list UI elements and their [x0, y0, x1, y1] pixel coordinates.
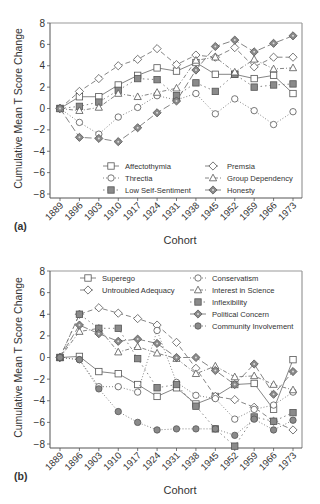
x-tick-label: 1924	[140, 450, 163, 473]
y-tick-label: 0	[39, 103, 45, 114]
x-tick-label: 1924	[140, 200, 163, 223]
data-point-marker	[193, 403, 199, 409]
y-tick-label: 8	[39, 18, 45, 29]
data-point-marker	[134, 104, 140, 110]
data-point-marker	[232, 443, 238, 449]
legend-item: Interest in Science	[190, 286, 274, 295]
data-point-marker	[115, 371, 121, 377]
legend-label: Interest in Science	[212, 286, 274, 295]
y-tick-label: −4	[34, 146, 46, 157]
data-point-marker	[154, 76, 160, 82]
data-point-marker	[115, 114, 121, 120]
data-point-marker	[114, 138, 122, 146]
data-point-marker	[134, 75, 140, 81]
data-point-marker	[251, 84, 257, 90]
x-tick-label: 1896	[62, 450, 85, 473]
x-tick-label: 1917	[120, 200, 143, 223]
x-tick-label: 1945	[198, 450, 221, 473]
legend-marker	[195, 323, 201, 329]
data-point-marker	[115, 325, 121, 331]
data-point-marker	[232, 416, 238, 422]
data-point-marker	[212, 88, 218, 94]
data-point-marker	[134, 93, 141, 100]
chart-panel-b: 86420−2−4−6−8188918961903191019171924193…	[0, 250, 320, 502]
legend-marker	[108, 175, 114, 181]
data-point-marker	[114, 337, 122, 345]
x-axis-label: Cohort	[163, 234, 196, 246]
data-point-marker	[251, 406, 257, 412]
data-point-marker	[211, 42, 219, 50]
legend-label: Conservatism	[212, 274, 258, 283]
panel-label: (b)	[14, 470, 27, 482]
data-point-marker	[193, 90, 199, 96]
x-tick-label: 1959	[237, 450, 260, 473]
x-tick-label: 1945	[198, 200, 221, 223]
data-point-marker	[270, 427, 276, 433]
y-tick-label: 4	[39, 60, 45, 71]
y-tick-label: −6	[34, 417, 46, 428]
y-tick-label: −2	[34, 374, 46, 385]
legend-item: Threctia	[103, 174, 153, 183]
data-point-marker	[134, 381, 140, 387]
data-point-marker	[95, 304, 103, 312]
data-point-marker	[289, 53, 297, 61]
data-point-marker	[172, 338, 180, 346]
data-point-marker	[251, 75, 257, 81]
y-axis-label: Cumulative Mean T Score Change	[12, 277, 24, 438]
data-point-marker	[192, 370, 199, 377]
legend-item: Untroubled Adequacy	[80, 286, 175, 295]
data-point-marker	[134, 389, 140, 395]
data-point-marker	[115, 383, 121, 389]
data-point-marker	[76, 311, 82, 317]
data-point-marker	[270, 121, 276, 127]
data-point-marker	[75, 321, 83, 329]
data-point-marker	[193, 426, 199, 432]
x-tick-label: 1966	[256, 200, 279, 223]
legend-marker	[108, 163, 114, 169]
data-point-marker	[173, 381, 179, 387]
data-point-marker	[251, 56, 258, 63]
legend-label: Community Involvement	[212, 322, 294, 331]
data-point-marker	[95, 74, 103, 82]
legend-item: Group Dependency	[205, 174, 293, 183]
data-point-marker	[270, 82, 276, 88]
legend-item: Honesty	[205, 186, 255, 195]
data-point-marker	[232, 432, 238, 438]
x-tick-label: 1889	[43, 200, 66, 223]
legend-item: Affectothymia	[103, 162, 172, 171]
data-point-marker	[134, 419, 140, 425]
y-tick-label: 4	[39, 309, 45, 320]
data-point-marker	[154, 65, 160, 71]
legend-item: Inflexibility	[190, 298, 247, 307]
data-point-marker	[115, 348, 122, 355]
data-point-marker	[134, 343, 141, 350]
panel-label: (a)	[14, 220, 27, 232]
legend-label: Threctia	[125, 174, 153, 183]
data-point-marker	[96, 386, 102, 392]
y-tick-label: 6	[39, 39, 45, 50]
legend-marker	[194, 310, 202, 318]
legend-marker	[194, 286, 201, 293]
data-point-marker	[251, 372, 258, 379]
data-point-marker	[75, 133, 83, 141]
data-point-marker	[290, 90, 296, 96]
data-point-marker	[115, 408, 121, 414]
legend-item: Premsia	[205, 162, 256, 171]
data-point-marker	[270, 381, 277, 388]
legend-label: Untroubled Adequacy	[102, 286, 175, 295]
y-tick-label: −2	[34, 124, 46, 135]
x-axis-label: Cohort	[163, 484, 196, 496]
data-point-marker	[251, 380, 257, 386]
data-point-marker	[231, 36, 239, 44]
data-point-marker	[231, 396, 239, 404]
legend-label: Superego	[102, 274, 135, 283]
data-point-marker	[153, 109, 161, 117]
legend: AffectothymiaThrectiaLow Self-SentimentP…	[103, 162, 293, 195]
x-tick-label: 1889	[43, 450, 66, 473]
data-point-marker	[269, 53, 277, 61]
data-point-marker	[269, 39, 277, 47]
legend-marker	[209, 162, 217, 170]
x-tick-label: 1966	[256, 450, 279, 473]
x-tick-label: 1910	[101, 450, 124, 473]
data-point-marker	[289, 386, 296, 393]
